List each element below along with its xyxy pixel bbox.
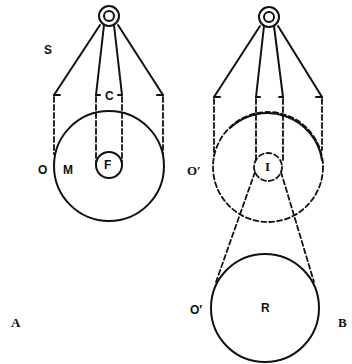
label-o-prime: O′ [187,164,201,177]
panel-a-string-left-outer [54,25,100,95]
panel-b-string-left-outer [214,26,260,97]
panel-a-string-right-outer [118,25,163,95]
panel-b-string-right-inner [274,26,283,97]
label-f: F [104,159,111,171]
label-o: O [38,164,47,176]
panel-b-loop-outer [259,7,279,27]
label-o-prime-lower: O′ [190,304,202,316]
label-c: C [104,90,115,102]
panel-b-string-right-outer [278,26,322,97]
panel-b-cone-left [216,172,255,282]
panel-a-figure [54,6,164,221]
label-r: R [261,302,270,314]
diagram-canvas [0,0,352,364]
panel-a-loop-inner [104,11,114,21]
label-i: I [265,160,270,173]
panel-b-loop-inner [264,12,274,22]
label-m: M [63,164,73,176]
panel-label-a: A [11,316,20,329]
panel-b-circle-o-prime-solid-arc [230,113,322,160]
label-s: S [44,44,52,56]
panel-a-loop-outer [99,6,119,26]
panel-label-b: B [338,316,347,329]
panel-b-string-left-inner [256,26,264,97]
panel-a-string-right-inner [114,25,122,95]
panel-a-string-left-inner [96,25,104,95]
